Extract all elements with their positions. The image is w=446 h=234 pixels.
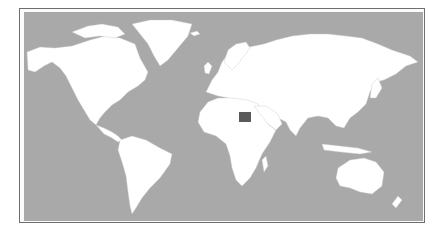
greenland [132, 20, 192, 66]
arctic-islands [72, 24, 125, 38]
world-map [0, 0, 446, 234]
iceland [190, 31, 200, 36]
uk [204, 62, 212, 74]
australia [336, 158, 384, 194]
new-zealand [392, 196, 402, 208]
north-america [27, 36, 148, 125]
south-america [118, 136, 172, 214]
indonesia [322, 144, 372, 154]
central-america [96, 125, 122, 142]
madagascar [262, 156, 268, 172]
egypt-highlight [239, 112, 251, 122]
